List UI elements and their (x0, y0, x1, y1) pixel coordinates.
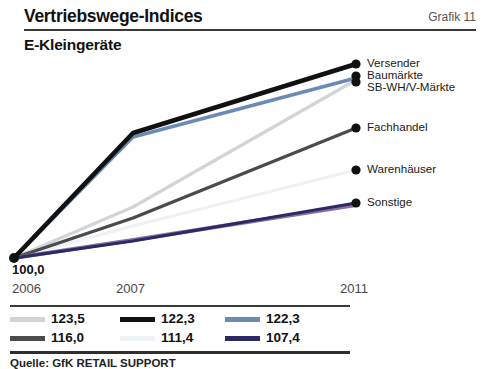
x-tick-2007: 2007 (116, 281, 145, 296)
endpoint-sbwh (351, 77, 360, 86)
series-label-sonstige: Sonstige (367, 196, 412, 208)
legend-row-2: 116,0 111,4 107,4 (10, 330, 355, 347)
legend-divider-bottom (10, 351, 350, 354)
legend-value-4: 111,4 (161, 330, 193, 345)
endpoint-fachhandel (351, 123, 360, 132)
series-line-fachhandel (14, 128, 356, 258)
baseline-value: 100,0 (12, 262, 45, 277)
legend-divider-top (10, 305, 350, 307)
plot-area (0, 0, 490, 310)
legend-value-2: 122,3 (266, 311, 300, 326)
legend-swatch-3 (10, 336, 45, 341)
series-label-warenhaeuser: Warenhäuser (367, 163, 436, 175)
x-tick-2006: 2006 (12, 281, 41, 296)
legend-swatch-5 (225, 336, 260, 341)
legend-value-5: 107,4 (266, 330, 300, 345)
legend-value-3: 116,0 (51, 330, 84, 345)
legend-row-1: 123,5 122,3 122,3 (10, 311, 355, 328)
series-label-fachhandel: Fachhandel (367, 121, 428, 133)
series-label-sbwh: SB-WH/V-Märkte (367, 81, 455, 93)
legend-swatch-2 (225, 317, 260, 322)
endpoint-sonstige (351, 198, 360, 207)
legend-swatch-1 (120, 317, 155, 322)
legend-swatch-4 (120, 336, 155, 341)
legend-value-1: 122,3 (161, 311, 195, 326)
source-note: Quelle: GfK RETAIL SUPPORT (10, 357, 176, 369)
endpoint-versender (351, 59, 360, 68)
x-tick-2011: 2011 (340, 281, 368, 296)
legend: 123,5 122,3 122,3 116,0 111,4 107, (10, 311, 355, 347)
legend-swatch-0 (10, 317, 45, 322)
legend-value-0: 123,5 (51, 311, 85, 326)
endpoint-warenhaeuser (351, 165, 360, 174)
